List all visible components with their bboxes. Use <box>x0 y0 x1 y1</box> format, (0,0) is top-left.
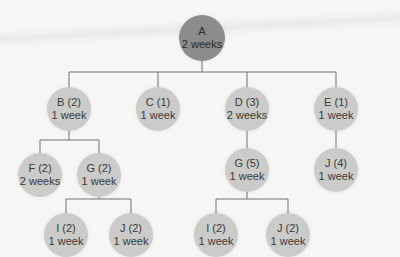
node-duration: 2 weeks <box>20 175 60 188</box>
node-label: I (2) <box>206 222 226 235</box>
node-e: E (1) 1 week <box>314 87 358 131</box>
node-duration: 1 week <box>141 109 176 122</box>
node-j2-right: J (2) 1 week <box>266 213 310 257</box>
node-b: B (2) 1 week <box>47 87 91 131</box>
node-i2-right: I (2) 1 week <box>194 213 238 257</box>
node-duration: 1 week <box>82 175 117 188</box>
node-label: I (2) <box>56 222 76 235</box>
node-j2-left: J (2) 1 week <box>109 213 153 257</box>
node-g2: G (2) 1 week <box>77 153 121 197</box>
node-duration: 1 week <box>49 235 84 248</box>
node-label: D (3) <box>235 96 259 109</box>
node-duration: 1 week <box>319 109 354 122</box>
node-label: B (2) <box>57 96 81 109</box>
node-label: A <box>198 25 205 38</box>
node-duration: 1 week <box>114 235 149 248</box>
node-i2-left: I (2) 1 week <box>44 213 88 257</box>
node-d: D (3) 2 weeks <box>225 87 269 131</box>
node-duration: 1 week <box>52 109 87 122</box>
node-j4: J (4) 1 week <box>314 148 358 192</box>
node-label: J (4) <box>325 157 347 170</box>
node-a: A 2 weeks <box>179 15 225 61</box>
node-duration: 1 week <box>230 170 265 183</box>
node-label: G (5) <box>234 157 259 170</box>
node-g5: G (5) 1 week <box>225 148 269 192</box>
node-duration: 2 weeks <box>182 38 222 51</box>
node-label: C (1) <box>146 96 170 109</box>
node-label: J (2) <box>120 222 142 235</box>
node-c: C (1) 1 week <box>136 87 180 131</box>
node-label: E (1) <box>324 96 348 109</box>
node-duration: 2 weeks <box>227 109 267 122</box>
node-duration: 1 week <box>271 235 306 248</box>
node-duration: 1 week <box>199 235 234 248</box>
node-label: G (2) <box>86 162 111 175</box>
node-duration: 1 week <box>319 170 354 183</box>
node-label: F (2) <box>28 162 51 175</box>
node-f: F (2) 2 weeks <box>18 153 62 197</box>
node-label: J (2) <box>277 222 299 235</box>
